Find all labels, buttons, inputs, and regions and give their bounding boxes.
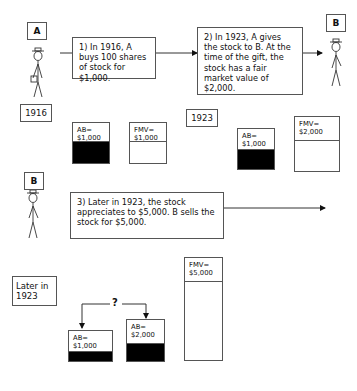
- person-b-figure-top: [330, 39, 342, 86]
- bar-ab-1923: AB=$1,000: [237, 128, 275, 170]
- person-b-label-top: B: [326, 14, 346, 32]
- bar-fmv-1923: FMV=$2,000: [294, 116, 340, 172]
- year-1916: 1916: [20, 104, 52, 122]
- bar-ab-later-1000: AB=$1,000: [68, 330, 113, 362]
- person-a-figure: [31, 48, 44, 97]
- basis-fill: [238, 150, 274, 169]
- bar-ab-1916: AB=$1,000: [72, 122, 110, 164]
- basis-fill: [127, 344, 164, 361]
- bar-fmv-1916: FMV=$1,000: [129, 122, 167, 164]
- basis-fill: [69, 352, 112, 361]
- person-b-label-middle: B: [24, 172, 44, 190]
- step-2-text: 2) In 1923, A gives the stock to B. At t…: [197, 27, 303, 95]
- year-later-1923: Later in 1923: [12, 276, 57, 306]
- person-a-label: A: [27, 22, 47, 40]
- person-b-figure-middle: [27, 190, 39, 238]
- basis-fill: [73, 142, 109, 163]
- year-1923: 1923: [186, 109, 218, 127]
- bar-ab-later-2000: AB=$2,000: [126, 319, 165, 362]
- step-3-text: 3) Later in 1923, the stock appreciates …: [70, 192, 224, 239]
- step-1-text: 1) In 1916, A buys 100 shares of stock f…: [72, 37, 156, 79]
- question-mark: ?: [112, 297, 118, 308]
- bar-fmv-later-1923: FMV=$5,000: [184, 257, 223, 361]
